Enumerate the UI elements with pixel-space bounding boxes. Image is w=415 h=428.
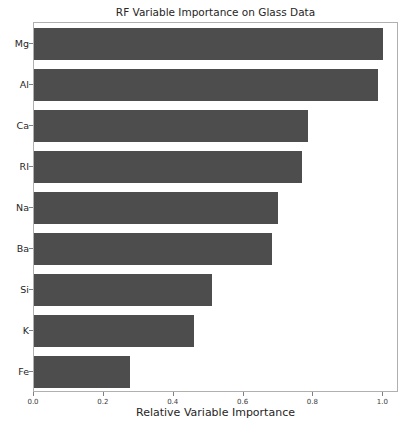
bar-ba — [34, 233, 272, 265]
x-tick-label-0-2: 0.2 — [97, 398, 108, 406]
y-tick-label-al: Al — [1, 78, 29, 89]
figure-canvas: RF Variable Importance on Glass Data MgA… — [0, 0, 415, 428]
bar-row — [34, 110, 398, 142]
bar-al — [34, 69, 378, 101]
x-tick-mark — [243, 392, 244, 396]
bar-ca — [34, 110, 308, 142]
x-tick-mark — [33, 392, 34, 396]
bar-fe — [34, 356, 130, 388]
chart-title: RF Variable Importance on Glass Data — [33, 5, 398, 19]
x-axis-label: Relative Variable Importance — [33, 406, 398, 419]
y-tick-label-ba: Ba — [1, 243, 29, 254]
y-tick-label-si: Si — [1, 284, 29, 295]
y-tick-label-mg: Mg — [1, 37, 29, 48]
y-tick-label-k: K — [1, 325, 29, 336]
bar-mg — [34, 28, 383, 60]
x-tick-label-0-4: 0.4 — [167, 398, 178, 406]
bar-row — [34, 151, 398, 183]
x-tick-mark — [382, 392, 383, 396]
x-tick-label-0-6: 0.6 — [237, 398, 248, 406]
bar-row — [34, 28, 398, 60]
bar-si — [34, 274, 212, 306]
bar-k — [34, 315, 194, 347]
y-tick-label-na: Na — [1, 202, 29, 213]
x-tick-mark — [103, 392, 104, 396]
plot-area — [33, 22, 398, 392]
x-tick-label-0-8: 0.8 — [307, 398, 318, 406]
bar-row — [34, 315, 398, 347]
bar-na — [34, 192, 278, 224]
y-tick-label-ri: RI — [1, 160, 29, 171]
bar-row — [34, 274, 398, 306]
y-axis-tick-labels: MgAlCaRINaBaSiKFe — [0, 22, 29, 392]
bar-row — [34, 233, 398, 265]
bar-row — [34, 356, 398, 388]
y-tick-label-fe: Fe — [1, 366, 29, 377]
bars-layer — [34, 23, 397, 391]
bar-row — [34, 69, 398, 101]
y-tick-label-ca: Ca — [1, 119, 29, 130]
x-tick-mark — [312, 392, 313, 396]
bar-ri — [34, 151, 302, 183]
x-tick-label-0-0: 0.0 — [27, 398, 38, 406]
bar-row — [34, 192, 398, 224]
x-tick-mark — [173, 392, 174, 396]
x-tick-label-1-0: 1.0 — [377, 398, 388, 406]
